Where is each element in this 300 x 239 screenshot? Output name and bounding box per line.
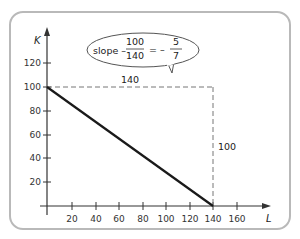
slope-fraction-numerator: 100: [126, 36, 144, 47]
y-axis-arrow-icon: [44, 27, 50, 36]
x-tick-label: 60: [113, 214, 125, 224]
x-axis: [40, 203, 271, 209]
x-tick-label: 120: [181, 214, 198, 224]
x-axis-label: L: [266, 213, 272, 224]
y-tick-label: 20: [30, 177, 42, 187]
y-tick-label: 40: [30, 153, 42, 163]
x-axis-arrow-icon: [262, 203, 271, 209]
y-tick-label: 80: [30, 106, 42, 116]
x-tick-label: 160: [228, 214, 245, 224]
x-tick-labels: 20 40 60 80 100 120 140 160: [66, 214, 246, 224]
x-tick-label: 140: [204, 214, 221, 224]
slope-fraction-denominator: 140: [126, 50, 144, 61]
x-tick-label: 100: [157, 214, 174, 224]
chart-svg: 20 40 60 80 100 120 20 40 60 80 100 120 …: [0, 0, 300, 239]
y-axis: [44, 27, 50, 215]
y-tick-label: 60: [30, 130, 42, 140]
slope-result-denominator: 7: [173, 50, 179, 61]
slope-result-numerator: 5: [173, 36, 179, 47]
budget-line: [47, 87, 213, 206]
y-tick-labels: 20 40 60 80 100 120: [24, 58, 41, 187]
rise-label: 100: [218, 141, 236, 152]
run-label: 140: [121, 74, 139, 85]
x-tick-label: 20: [66, 214, 78, 224]
slope-equals: = –: [149, 44, 165, 55]
y-axis-label: K: [34, 35, 42, 46]
x-tick-label: 40: [90, 214, 102, 224]
x-tick-label: 80: [137, 214, 149, 224]
slope-prefix: slope –: [93, 45, 126, 56]
y-tick-label: 120: [24, 58, 41, 68]
slope-callout: slope – 100 140 = – 5 7: [87, 33, 199, 73]
y-tick-label: 100: [24, 82, 41, 92]
